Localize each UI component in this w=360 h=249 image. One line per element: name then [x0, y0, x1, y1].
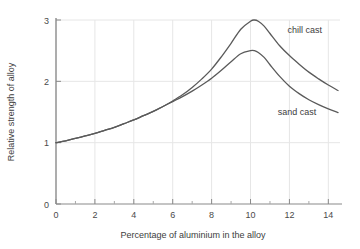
relative-strength-line-chart: 02468101214 0123 chill castsand cast Per…	[0, 0, 360, 249]
x-tick-label: 12	[284, 210, 294, 220]
y-tick-label: 3	[44, 16, 49, 26]
x-tick-label: 14	[323, 210, 333, 220]
x-tick-label: 0	[53, 210, 58, 220]
x-tick-label: 10	[246, 210, 256, 220]
x-tick-label: 4	[131, 210, 136, 220]
x-axis-title: Percentage of aluminium in the alloy	[120, 230, 266, 240]
x-tick-label: 8	[209, 210, 214, 220]
y-tick-label: 1	[44, 138, 49, 148]
chart-container: 02468101214 0123 chill castsand cast Per…	[0, 0, 360, 249]
x-tick-label: 2	[92, 210, 97, 220]
x-tick-label: 6	[170, 210, 175, 220]
y-axis-title: Relative strength of alloy	[6, 62, 16, 161]
y-tick-label: 2	[44, 77, 49, 87]
series-label-chill-cast: chill cast	[287, 25, 322, 35]
y-tick-label: 0	[44, 200, 49, 210]
series-label-sand-cast: sand cast	[278, 107, 317, 117]
